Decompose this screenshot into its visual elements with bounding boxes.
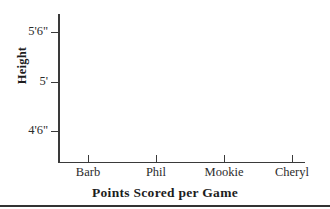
y-axis-tick-mark	[51, 32, 59, 34]
y-axis-tick-mark	[51, 82, 59, 84]
y-axis-title: Height	[15, 36, 30, 96]
bottom-divider	[0, 205, 330, 207]
x-axis-tick-mark	[88, 155, 90, 162]
y-axis-tick-label: 4'6"	[28, 124, 48, 137]
x-axis-tick-mark	[156, 155, 158, 162]
chart-container: 5'6" 5' 4'6" Height Barb Phil Mookie Che…	[0, 0, 330, 209]
y-axis-tick-label: 5'6"	[28, 25, 48, 38]
plot-area	[59, 14, 305, 161]
y-axis-line	[58, 14, 60, 163]
x-axis-category-label-cheryl: Cheryl	[247, 165, 330, 179]
x-axis-tick-mark	[292, 155, 294, 162]
y-axis-tick-mark	[51, 131, 59, 133]
x-axis-line	[58, 162, 305, 164]
y-axis-tick-label: 5'	[39, 75, 48, 88]
x-axis-tick-mark	[224, 155, 226, 162]
x-axis-title: Points Scored per Game	[0, 185, 330, 201]
